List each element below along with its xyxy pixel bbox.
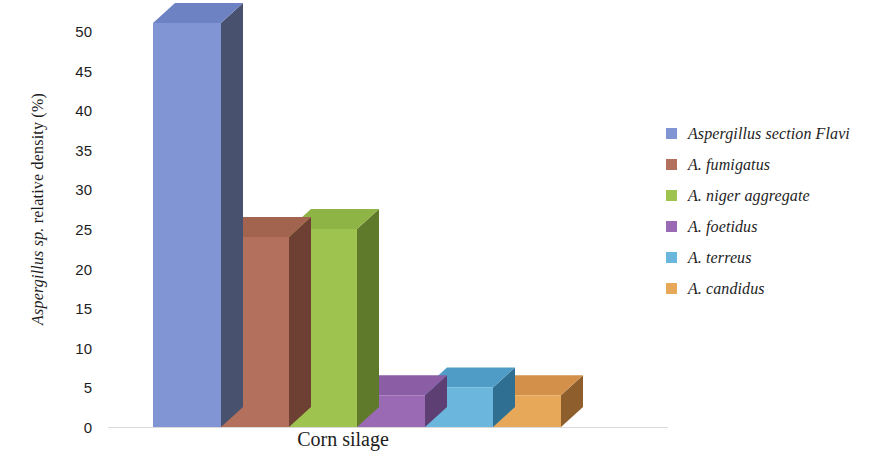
bar-chart-figure: Aspergillus sp. relative density (%) 051… [0, 0, 889, 461]
y-axis-title: Aspergillus sp. relative density (%) [29, 9, 47, 409]
y-tick-label: 30 [46, 181, 92, 198]
legend-label: A. niger aggregate [688, 187, 810, 205]
legend-label: A. candidus [688, 280, 765, 298]
legend-item-5[interactable]: A. terreus [666, 242, 889, 273]
y-tick-label: 45 [46, 62, 92, 79]
y-tick-label: 20 [46, 260, 92, 277]
y-tick-label: 5 [46, 379, 92, 396]
legend-swatch-icon [666, 159, 677, 170]
legend-item-6[interactable]: A. candidus [666, 273, 889, 304]
legend-label: A. terreus [688, 249, 752, 267]
y-axis-tick-labels: 05101520253035404550 [46, 0, 92, 461]
y-tick-label: 10 [46, 339, 92, 356]
legend-label: A. foetidus [688, 218, 758, 236]
x-axis-title: Corn silage [108, 428, 578, 451]
y-tick-label: 40 [46, 102, 92, 119]
legend-label: A. fumigatus [688, 156, 770, 174]
bar-front-face-1 [153, 23, 221, 427]
legend-item-3[interactable]: A. niger aggregate [666, 180, 889, 211]
legend-swatch-icon [666, 221, 677, 232]
legend-item-1[interactable]: Aspergillus section Flavi [666, 118, 889, 149]
plot-area [108, 0, 668, 461]
bar-side-face-1 [221, 3, 243, 427]
legend-item-2[interactable]: A. fumigatus [666, 149, 889, 180]
bar-side-face-3 [357, 209, 379, 427]
y-tick-label: 50 [46, 23, 92, 40]
y-axis-title-rest: relative density (%) [29, 93, 46, 227]
y-tick-label: 35 [46, 141, 92, 158]
bars-group [108, 0, 668, 461]
bar-side-face-2 [289, 217, 311, 427]
y-tick-label: 0 [46, 419, 92, 436]
y-tick-label: 15 [46, 300, 92, 317]
legend-swatch-icon [666, 128, 677, 139]
chart-legend: Aspergillus section FlaviA. fumigatusA. … [666, 118, 889, 304]
y-axis-title-italic: Aspergillus sp. [29, 227, 46, 325]
legend-swatch-icon [666, 283, 677, 294]
legend-label: Aspergillus section Flavi [688, 125, 850, 143]
y-tick-label: 25 [46, 221, 92, 238]
legend-swatch-icon [666, 252, 677, 263]
legend-swatch-icon [666, 190, 677, 201]
legend-item-4[interactable]: A. foetidus [666, 211, 889, 242]
